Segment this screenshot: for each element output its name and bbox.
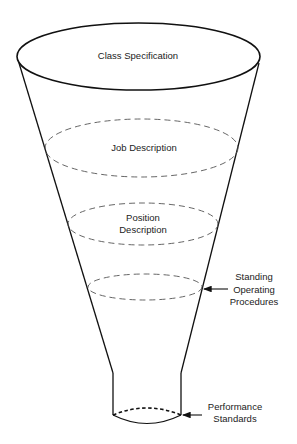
funnel-right-edge (181, 63, 259, 373)
funnel-svg: Class Specification Job Description Posi… (0, 0, 297, 444)
sop-label-line1: Standing (235, 271, 273, 282)
performance-standards-front-arc (113, 415, 181, 424)
class-specification-label: Class Specification (98, 50, 178, 61)
position-description-label-line2: Description (119, 224, 167, 235)
sop-label-line3: Procedures (230, 296, 279, 307)
job-description-label: Job Description (111, 142, 176, 153)
sop-ellipse (88, 274, 202, 300)
performance-standards-label-line1: Performance (208, 401, 262, 412)
funnel-diagram: Class Specification Job Description Posi… (0, 0, 297, 444)
position-description-label-line1: Position (126, 212, 160, 223)
performance-standards-label-line2: Standards (213, 413, 257, 424)
performance-standards-back-arc (113, 408, 181, 415)
sop-label-line2: Operating (233, 284, 275, 295)
funnel-left-edge (19, 63, 113, 373)
